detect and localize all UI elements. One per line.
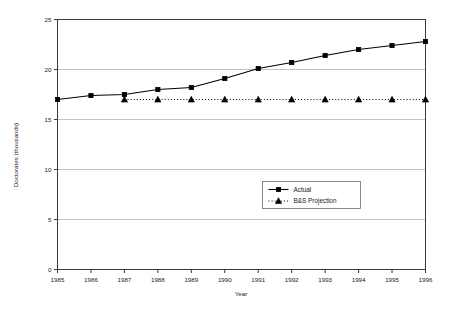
data-point-0-1991 <box>256 66 260 70</box>
y-axis-title: Doctorates (thousands) <box>12 123 19 187</box>
x-tick-label-1991: 1991 <box>251 276 265 283</box>
y-tick-label-25: 25 <box>45 16 52 23</box>
x-tick-label-1995: 1995 <box>385 276 399 283</box>
data-point-0-1988 <box>156 87 160 91</box>
x-tick-label-1993: 1993 <box>318 276 332 283</box>
legend-label-0: Actual <box>294 186 312 193</box>
legend-marker-0 <box>276 187 280 191</box>
y-tick-label-0: 0 <box>48 266 52 273</box>
x-tick-label-1994: 1994 <box>352 276 366 283</box>
x-tick-label-1986: 1986 <box>84 276 98 283</box>
y-tick-label-20: 20 <box>45 66 52 73</box>
data-point-0-1993 <box>323 53 327 57</box>
x-axis-title: Year <box>235 290 248 297</box>
x-tick-label-1988: 1988 <box>151 276 165 283</box>
chart-figure: 0510152025 19851986198719881989199019911… <box>0 0 455 313</box>
data-point-0-1989 <box>189 85 193 89</box>
chart-legend: ActualB&S Projection <box>263 182 361 209</box>
x-tick-label-1992: 1992 <box>285 276 299 283</box>
data-point-0-1986 <box>89 93 93 97</box>
data-point-0-1990 <box>223 76 227 80</box>
y-tick-label-15: 15 <box>45 116 52 123</box>
chart-background <box>0 0 455 313</box>
y-tick-label-5: 5 <box>48 216 52 223</box>
x-tick-label-1996: 1996 <box>419 276 433 283</box>
x-tick-label-1989: 1989 <box>184 276 198 283</box>
x-tick-label-1987: 1987 <box>118 276 132 283</box>
legend-box <box>263 182 361 209</box>
data-point-0-1994 <box>356 47 360 51</box>
y-tick-label-10: 10 <box>45 166 52 173</box>
data-point-0-1985 <box>55 97 59 101</box>
x-tick-label-1985: 1985 <box>51 276 65 283</box>
x-tick-label-1990: 1990 <box>218 276 232 283</box>
data-point-0-1995 <box>390 43 394 47</box>
data-point-0-1996 <box>423 39 427 43</box>
legend-label-1: B&S Projection <box>294 197 337 205</box>
data-point-0-1992 <box>290 60 294 64</box>
line-chart-canvas: 0510152025 19851986198719881989199019911… <box>0 0 455 313</box>
